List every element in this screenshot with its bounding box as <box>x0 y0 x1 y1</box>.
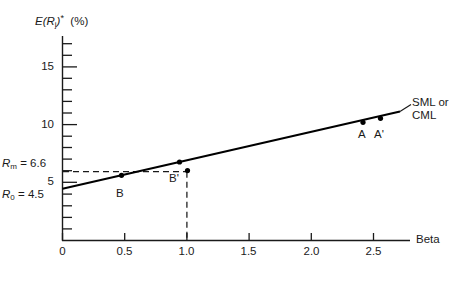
y-axis-minor-ticks <box>62 44 72 229</box>
x-tick-label-1-5: 1.5 <box>230 246 267 258</box>
data-point-a-prime <box>378 116 383 121</box>
data-point-b <box>119 173 124 178</box>
series-label-line2: CML <box>412 109 436 121</box>
data-point-b-prime <box>177 159 182 164</box>
chart-figure: E(Rj)* (%) <box>0 0 459 286</box>
sml-cml-line <box>63 111 401 188</box>
legend-leader-line <box>400 105 411 112</box>
point-label-b: B <box>116 188 124 200</box>
r0-annotation: R0 = 4.5 <box>2 189 44 202</box>
y-axis-major-ticks <box>62 67 77 182</box>
y-tick-label-15: 15 <box>18 61 54 73</box>
x-axis-title: Beta <box>416 234 440 246</box>
series-label-sml-cml: SML or CML <box>412 96 449 121</box>
data-point-a <box>360 120 365 125</box>
x-tick-label-2-5: 2.5 <box>355 246 392 258</box>
rm-subscript: m <box>10 162 17 171</box>
series-label-line1: SML or <box>412 96 449 108</box>
x-axis-ticks <box>63 233 374 240</box>
x-tick-label-0-5: 0.5 <box>106 246 143 258</box>
y-tick-label-5: 5 <box>18 176 54 188</box>
plot-area <box>0 0 459 286</box>
r0-subscript: 0 <box>10 193 14 202</box>
r0-value: = 4.5 <box>18 188 44 200</box>
point-label-b-prime: B' <box>169 173 179 185</box>
point-label-a-prime: A' <box>374 129 384 141</box>
data-point-market <box>185 168 190 173</box>
point-label-a: A <box>358 129 366 141</box>
x-tick-label-1-0: 1.0 <box>168 246 205 258</box>
x-tick-label-2-0: 2.0 <box>293 246 330 258</box>
x-tick-label-0: 0 <box>44 246 81 258</box>
rm-value: = 6.6 <box>20 157 46 169</box>
rm-annotation: Rm = 6.6 <box>2 158 46 171</box>
y-tick-label-10: 10 <box>18 119 54 131</box>
